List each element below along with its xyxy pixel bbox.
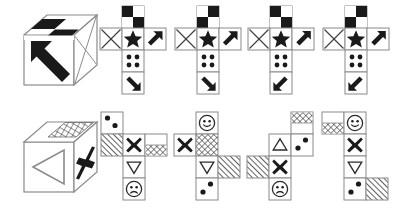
puzzle-canvas <box>0 0 406 212</box>
cube-hatch-triangle <box>24 122 97 192</box>
cube-folding-puzzle: Two isometric cubes each followed by fou… <box>0 0 406 212</box>
cell-half-crosshatch <box>291 112 313 134</box>
cell-half-crosshatch <box>322 112 344 134</box>
cell-half-crosshatch <box>145 134 167 156</box>
